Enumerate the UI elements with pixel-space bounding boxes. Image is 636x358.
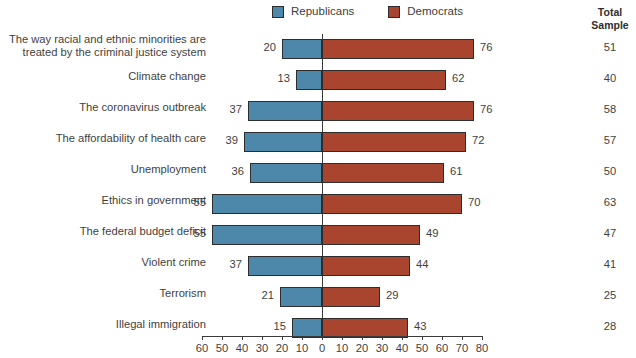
bar-democrats <box>322 163 444 183</box>
legend-item-democrats: Democrats <box>388 6 463 18</box>
category-label-line1: Terrorism <box>6 287 206 300</box>
bar-democrats <box>322 101 474 121</box>
x-axis-line <box>203 336 483 337</box>
chart-row: The coronavirus outbreak377658 <box>0 96 636 127</box>
category-label-line1: Illegal immigration <box>6 318 206 331</box>
x-axis-tick <box>422 336 423 340</box>
chart-row: The federal budget deficit554947 <box>0 220 636 251</box>
x-axis-tick-label: 80 <box>467 342 497 354</box>
plot-area: The way racial and ethnic minorities are… <box>0 30 636 330</box>
bar-republicans <box>212 194 322 214</box>
total-sample-header: Total Sample <box>584 6 636 32</box>
x-axis-tick <box>242 336 243 340</box>
x-axis-tick <box>262 336 263 340</box>
total-sample-value: 47 <box>584 227 636 240</box>
category-label: Terrorism <box>6 287 206 300</box>
x-axis-tick <box>402 336 403 340</box>
x-axis-tick <box>322 336 323 340</box>
total-sample-value: 25 <box>584 289 636 302</box>
bar-republicans <box>248 101 322 121</box>
value-label-democrats: 70 <box>468 196 500 209</box>
chart-row: Violent crime374441 <box>0 251 636 282</box>
bar-democrats <box>322 194 462 214</box>
value-label-democrats: 43 <box>414 320 446 333</box>
bar-republicans <box>244 132 322 152</box>
category-label: The coronavirus outbreak <box>6 101 206 114</box>
legend-label-republicans: Republicans <box>291 6 354 18</box>
value-label-republicans: 37 <box>210 103 242 116</box>
total-sample-value: 57 <box>584 134 636 147</box>
bar-republicans <box>292 318 322 338</box>
chart-row: The way racial and ethnic minorities are… <box>0 34 636 65</box>
value-label-republicans: 55 <box>174 196 206 209</box>
x-axis-tick <box>462 336 463 340</box>
category-label-line1: Climate change <box>6 70 206 83</box>
legend-swatch-democrats-icon <box>388 6 400 18</box>
bar-republicans <box>296 70 322 90</box>
x-axis-tick <box>202 336 203 340</box>
category-label: Climate change <box>6 70 206 83</box>
total-sample-header-line1: Total <box>584 6 636 19</box>
legend-swatch-republicans-icon <box>272 6 284 18</box>
value-label-republicans: 36 <box>212 165 244 178</box>
bar-democrats <box>322 256 410 276</box>
value-label-democrats: 62 <box>452 72 484 85</box>
x-axis-tick <box>482 336 483 340</box>
bar-democrats <box>322 39 474 59</box>
value-label-democrats: 29 <box>386 289 418 302</box>
value-label-republicans: 13 <box>258 72 290 85</box>
category-label-line1: Violent crime <box>6 256 206 269</box>
total-sample-value: 58 <box>584 103 636 116</box>
total-sample-value: 63 <box>584 196 636 209</box>
bar-republicans <box>250 163 322 183</box>
category-label: The affordability of health care <box>6 132 206 145</box>
category-label: Violent crime <box>6 256 206 269</box>
bar-republicans <box>212 225 322 245</box>
category-label-line2: treated by the criminal justice system <box>6 46 206 59</box>
chart-row: Unemployment366150 <box>0 158 636 189</box>
value-label-democrats: 72 <box>472 134 504 147</box>
chart-legend: Republicans Democrats <box>272 6 463 18</box>
total-sample-value: 41 <box>584 258 636 271</box>
bar-republicans <box>248 256 322 276</box>
x-axis-tick <box>382 336 383 340</box>
x-axis-tick <box>222 336 223 340</box>
category-label-line1: The way racial and ethnic minorities are <box>6 33 206 46</box>
value-label-republicans: 21 <box>242 289 274 302</box>
bar-republicans <box>282 39 322 59</box>
total-sample-value: 51 <box>584 41 636 54</box>
chart-row: Climate change136240 <box>0 65 636 96</box>
category-label-line1: The affordability of health care <box>6 132 206 145</box>
diverging-bar-chart: Republicans Democrats Total Sample The w… <box>0 0 636 358</box>
value-label-democrats: 76 <box>480 103 512 116</box>
bar-democrats <box>322 225 420 245</box>
bar-democrats <box>322 70 446 90</box>
category-label: The way racial and ethnic minorities are… <box>6 33 206 58</box>
total-sample-value: 40 <box>584 72 636 85</box>
x-axis-tick <box>442 336 443 340</box>
value-label-republicans: 37 <box>210 258 242 271</box>
bar-democrats <box>322 318 408 338</box>
category-label: Unemployment <box>6 163 206 176</box>
value-label-democrats: 49 <box>426 227 458 240</box>
x-axis-tick <box>362 336 363 340</box>
value-label-republicans: 55 <box>174 227 206 240</box>
total-sample-value: 28 <box>584 320 636 333</box>
total-sample-value: 50 <box>584 165 636 178</box>
category-label-line1: Unemployment <box>6 163 206 176</box>
legend-item-republicans: Republicans <box>272 6 354 18</box>
category-label: Illegal immigration <box>6 318 206 331</box>
value-label-republicans: 20 <box>244 41 276 54</box>
x-axis-tick <box>282 336 283 340</box>
value-label-democrats: 61 <box>450 165 482 178</box>
chart-row: Ethics in government557063 <box>0 189 636 220</box>
bar-democrats <box>322 287 380 307</box>
x-axis-tick <box>342 336 343 340</box>
value-label-democrats: 76 <box>480 41 512 54</box>
chart-row: The affordability of health care397257 <box>0 127 636 158</box>
bar-republicans <box>280 287 322 307</box>
chart-row: Terrorism212925 <box>0 282 636 313</box>
value-label-republicans: 15 <box>254 320 286 333</box>
category-label-line1: The coronavirus outbreak <box>6 101 206 114</box>
value-label-republicans: 39 <box>206 134 238 147</box>
